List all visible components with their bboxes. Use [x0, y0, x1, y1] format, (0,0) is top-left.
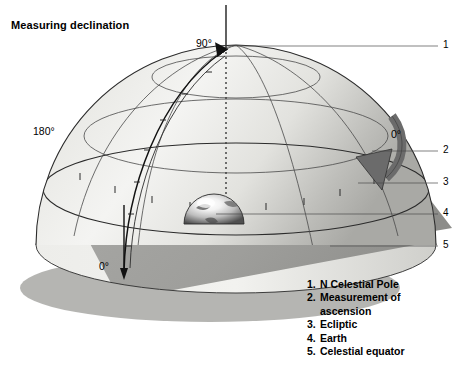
legend-item-3: 3. Ecliptic: [307, 318, 467, 331]
angle-label-ra-0: 0°: [391, 128, 401, 140]
angle-label-ra-180: 180°: [33, 125, 55, 137]
legend-item-2: 2. Measurement of: [307, 291, 467, 304]
legend-item-4: 4. Earth: [307, 332, 467, 345]
legend-label: Ecliptic: [320, 318, 467, 331]
legend-label-continuation: ascension: [307, 305, 467, 318]
callout-number-2: 2: [443, 144, 449, 155]
legend-number: 2.: [307, 291, 320, 304]
callout-number-3: 3: [443, 176, 449, 187]
angle-label-dec-90: 90°: [196, 37, 212, 49]
legend-number: 3.: [307, 318, 320, 331]
callout-number-5: 5: [443, 239, 449, 250]
legend-number: 1.: [307, 278, 320, 291]
legend-label: N Celestial Pole: [320, 278, 467, 291]
figure-page: Measuring declination: [0, 0, 471, 376]
legend: 1. N Celestial Pole 2. Measurement of as…: [307, 278, 467, 358]
legend-item-1: 1. N Celestial Pole: [307, 278, 467, 291]
legend-label: Earth: [320, 332, 467, 345]
callout-number-1: 1: [443, 39, 449, 50]
callout-number-4: 4: [443, 207, 449, 218]
angle-label-dec-0: 0°: [99, 260, 109, 272]
legend-number: 4.: [307, 332, 320, 345]
legend-label: Measurement of: [320, 291, 467, 304]
legend-number: 5.: [307, 345, 320, 358]
legend-label: Celestial equator: [320, 345, 467, 358]
legend-item-5: 5. Celestial equator: [307, 345, 467, 358]
